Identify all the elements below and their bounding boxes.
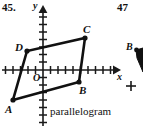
vertex-label-a: A (5, 104, 12, 115)
fragment-plus-icon (126, 81, 136, 91)
figure-page: 45. y x O A B C D parallelogram 47 B (0, 0, 143, 126)
origin-label: O (33, 73, 40, 83)
vertex-dot-c (82, 35, 87, 40)
problem-number: 45. (2, 2, 16, 13)
parallelogram-shape (13, 38, 85, 100)
y-axis-arrowhead (39, 5, 48, 13)
vertex-label-b: B (79, 85, 86, 96)
vertex-label-d: D (15, 42, 23, 53)
vertex-dot-d (24, 48, 29, 53)
neighbor-vertex-label-b: B (126, 42, 133, 52)
neighbor-problem-number: 47 (117, 2, 128, 13)
y-axis-label: y (33, 1, 37, 11)
figure-caption: parallelogram (50, 106, 111, 117)
fragment-vertex-dot-b (134, 48, 139, 53)
x-axis-label: x (117, 72, 122, 82)
vertex-label-c: C (83, 24, 90, 35)
vertex-dot-a (10, 97, 15, 102)
